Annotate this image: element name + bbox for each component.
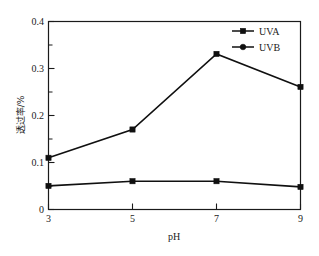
x-tick-label-0: 3 (46, 213, 51, 224)
legend-marker-uva (240, 28, 245, 33)
chart-screenshot: 0.4 0.3 0.2 0.1 0 3 5 7 9 pH 透过率/% (0, 0, 319, 256)
legend-label-uva: UVA (259, 26, 280, 37)
chart-canvas: 0.4 0.3 0.2 0.1 0 3 5 7 9 pH 透过率/% (0, 0, 319, 256)
x-axis-title: pH (168, 231, 180, 242)
y-tick-label-4: 0.4 (32, 16, 45, 27)
y-tick-label-0: 0 (39, 204, 44, 215)
x-tick-label-3: 9 (298, 213, 303, 224)
y-tick-label-3: 0.3 (32, 63, 45, 74)
chart-legend: UVA UVB (232, 26, 280, 53)
legend-label-uvb: UVB (259, 42, 280, 53)
x-tick-label-2: 7 (214, 213, 219, 224)
y-axis-ticks (49, 22, 55, 210)
y-axis-title: 透过率/% (15, 95, 26, 134)
y-tick-label-1: 0.1 (32, 157, 45, 168)
series-line-uvb (49, 54, 301, 158)
x-tick-label-1: 5 (130, 213, 135, 224)
series-markers-uvb (46, 51, 303, 160)
line-chart: 0.4 0.3 0.2 0.1 0 3 5 7 9 pH 透过率/% (0, 0, 319, 256)
series-line-uva (49, 181, 301, 187)
x-axis-ticks (49, 204, 301, 210)
legend-marker-uvb (240, 44, 246, 50)
y-tick-label-2: 0.2 (32, 110, 45, 121)
